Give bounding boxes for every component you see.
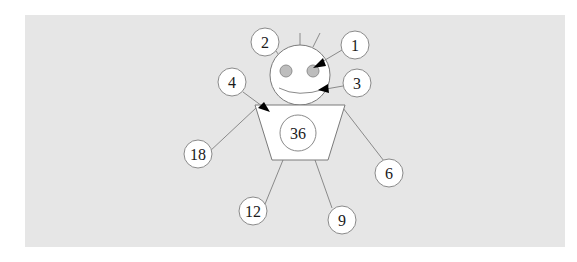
callout-label: 1 xyxy=(351,37,359,54)
head-circle xyxy=(270,45,330,105)
callout-label: 2 xyxy=(261,34,269,51)
callout-1: 1 xyxy=(341,31,369,59)
callout-12: 12 xyxy=(239,197,267,225)
callout-label: 12 xyxy=(245,203,261,220)
callout-3: 3 xyxy=(343,69,371,97)
callout-18: 18 xyxy=(184,140,212,168)
left-eye xyxy=(280,65,292,77)
body-label: 36 xyxy=(290,125,306,142)
callout-label: 3 xyxy=(353,75,361,92)
callout-label: 18 xyxy=(190,146,206,163)
callout-2: 2 xyxy=(251,28,279,56)
callout-label: 4 xyxy=(228,74,236,91)
callout-4: 4 xyxy=(218,68,246,96)
callout-label: 6 xyxy=(385,165,393,182)
callout-label: 9 xyxy=(338,212,346,229)
callout-9: 9 xyxy=(328,206,356,234)
diagram-canvas: 36 1 2 3 4 18 6 12 9 xyxy=(0,0,577,262)
head xyxy=(270,45,330,105)
callout-6: 6 xyxy=(375,159,403,187)
